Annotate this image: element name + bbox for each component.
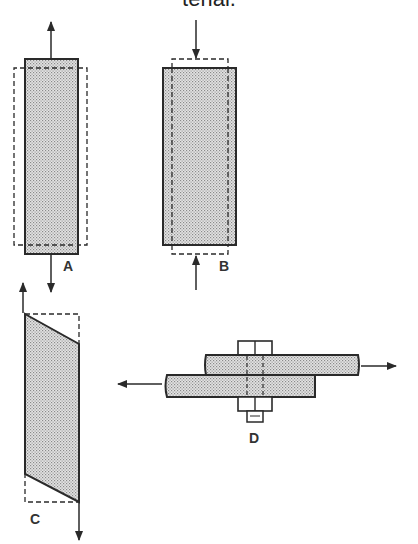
label-d: D [249, 430, 259, 446]
figure-c [23, 283, 79, 540]
bar-solid [25, 59, 78, 254]
top-plate [205, 355, 359, 375]
bottom-plate [166, 375, 316, 397]
label-b: B [219, 258, 229, 274]
bar-solid [163, 68, 236, 245]
label-a: A [63, 258, 73, 274]
figure-a [14, 22, 87, 292]
figure-d [118, 341, 396, 422]
sheared-parallelogram [25, 314, 79, 502]
label-c: C [30, 511, 40, 527]
figure-b [163, 20, 236, 290]
